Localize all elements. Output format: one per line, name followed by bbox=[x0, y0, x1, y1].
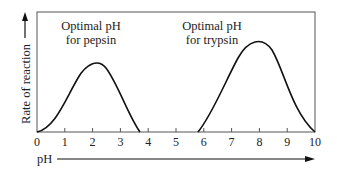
svg-text:6: 6 bbox=[201, 135, 207, 149]
pepsin-curve bbox=[37, 63, 140, 132]
x-ticks bbox=[65, 128, 287, 132]
pepsin-annotation-line1: Optimal pH bbox=[61, 19, 120, 33]
x-axis-label: pH bbox=[37, 152, 52, 166]
svg-text:7: 7 bbox=[229, 135, 235, 149]
pepsin-annotation-line2: for pepsin bbox=[66, 33, 117, 47]
trypsin-annotation-line1: Optimal pH bbox=[182, 19, 241, 33]
enzyme-ph-chart: 0 1 2 3 4 5 6 7 8 9 10 Optimal pH for pe… bbox=[0, 0, 337, 176]
x-tick-labels: 0 1 2 3 4 5 6 7 8 9 10 bbox=[34, 135, 321, 149]
svg-text:2: 2 bbox=[90, 135, 96, 149]
svg-text:5: 5 bbox=[173, 135, 179, 149]
svg-text:4: 4 bbox=[145, 135, 151, 149]
svg-text:0: 0 bbox=[34, 135, 40, 149]
svg-text:1: 1 bbox=[62, 135, 68, 149]
y-axis-arrow-icon bbox=[22, 12, 28, 21]
trypsin-curve bbox=[198, 42, 315, 132]
y-axis-label: Rate of reaction bbox=[19, 43, 33, 124]
svg-text:10: 10 bbox=[309, 135, 321, 149]
svg-text:8: 8 bbox=[256, 135, 262, 149]
x-axis-arrow-icon bbox=[305, 156, 315, 162]
svg-text:3: 3 bbox=[117, 135, 123, 149]
svg-text:9: 9 bbox=[284, 135, 290, 149]
trypsin-annotation-line2: for trypsin bbox=[186, 33, 239, 47]
